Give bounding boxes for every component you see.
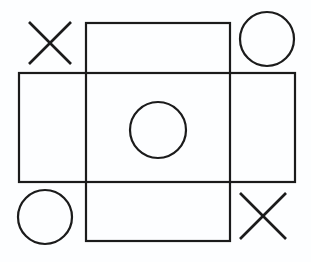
cell-top-right-o-mark[interactable]: [240, 12, 294, 66]
cell-bottom-left-o-mark[interactable]: [18, 190, 72, 244]
horizontal-rectangle: [19, 73, 295, 182]
cell-bottom-right-x-mark[interactable]: [240, 193, 286, 239]
board-canvas: [0, 0, 311, 262]
cell-top-left-x-mark[interactable]: [29, 22, 71, 64]
cell-middle-center-o-mark[interactable]: [130, 102, 186, 158]
vertical-rectangle: [86, 23, 230, 241]
tic-tac-toe-figure: [0, 0, 311, 262]
marks-group: [18, 12, 294, 244]
